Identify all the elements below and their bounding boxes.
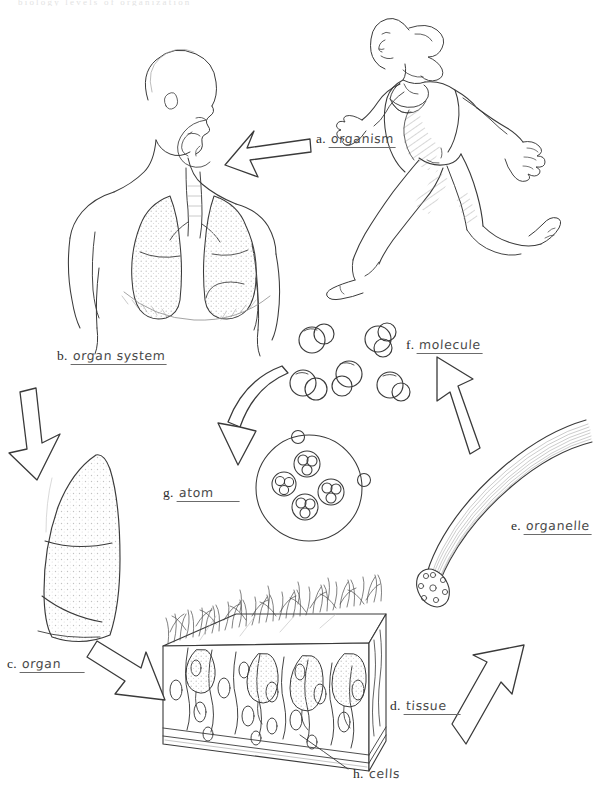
- label-tissue-letter: d.: [390, 698, 401, 713]
- molecule-5: [377, 372, 410, 401]
- molecule-1: [299, 324, 334, 353]
- label-cells-word: cells: [366, 766, 402, 782]
- label-organ-system-letter: b.: [57, 348, 68, 363]
- label-organism: a.organism: [316, 131, 396, 148]
- arrow-molecule-to-atom: [218, 366, 288, 465]
- label-molecule: f.molecule: [406, 337, 483, 354]
- molecule-3: [290, 370, 327, 400]
- label-atom-letter: g.: [163, 485, 174, 500]
- cilium-organelle: [410, 420, 592, 613]
- label-cells: h.cells: [353, 766, 402, 782]
- respiratory-organ-system: [68, 49, 279, 356]
- label-atom-word: atom: [176, 485, 240, 502]
- illustration-layer: [0, 0, 610, 806]
- label-cells-letter: h.: [353, 766, 364, 781]
- molecule-4: [332, 361, 362, 396]
- molecule-cluster: [290, 323, 410, 401]
- label-organ: c.organ: [7, 656, 85, 673]
- label-organ-system: b.organ system: [57, 348, 167, 365]
- epithelium-tissue-block: [163, 575, 386, 771]
- molecule-2: [365, 323, 396, 357]
- label-tissue: d.tissue: [390, 698, 460, 715]
- worksheet-page: biology levels of organization: [0, 0, 610, 806]
- atom-diagram: [256, 431, 371, 542]
- label-organelle-word: organelle: [523, 518, 592, 535]
- label-organism-letter: a.: [316, 131, 326, 146]
- single-lung-organ: [38, 455, 120, 642]
- label-organ-word: organ: [19, 656, 85, 673]
- label-organism-word: organism: [328, 131, 396, 148]
- label-organelle-letter: e.: [511, 518, 521, 533]
- arrow-organ-to-tissue: [87, 641, 165, 700]
- label-organ-letter: c.: [7, 656, 17, 671]
- label-molecule-word: molecule: [417, 337, 484, 354]
- arrow-organelle-to-molecule: [437, 357, 480, 454]
- arrow-tissue-to-organelle: [452, 645, 524, 744]
- arrow-organism-to-organ-system: [225, 131, 311, 177]
- label-molecule-letter: f.: [406, 337, 414, 352]
- label-organ-system-word: organ system: [70, 348, 167, 365]
- label-tissue-word: tissue: [403, 698, 461, 715]
- arrow-organ-system-to-organ: [9, 388, 60, 480]
- label-atom: g.atom: [163, 485, 239, 502]
- label-organelle: e.organelle: [511, 518, 592, 535]
- runner-organism: [327, 18, 561, 299]
